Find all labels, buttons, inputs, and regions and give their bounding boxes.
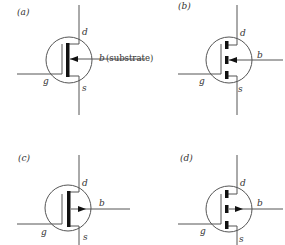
body-label: b (257, 50, 263, 60)
source-label: s (83, 232, 88, 242)
body-label: b (99, 198, 105, 208)
panel-c-label: (c) (18, 153, 31, 163)
gate-label: g (200, 226, 206, 236)
body-label: b (99, 53, 105, 63)
drain-label: d (240, 178, 246, 188)
source-label: s (238, 84, 243, 94)
gate-label: g (43, 76, 49, 86)
panel-a-label: (a) (17, 7, 30, 17)
channel-segment (225, 190, 229, 198)
panel-b-label: (b) (178, 1, 191, 11)
panel-b: (b) d b g s (178, 1, 283, 115)
gate-label: g (41, 227, 47, 237)
arrow-outward-icon (235, 206, 243, 212)
channel-segment (225, 56, 229, 64)
source-label: s (82, 83, 87, 93)
gate-label: g (199, 76, 205, 86)
drain-label: d (240, 28, 246, 38)
panel-d: (d) d b g s (178, 153, 283, 245)
mosfet-symbols-figure: (a) d b (substrate) g s (b) d (0, 0, 285, 245)
panel-c: (c) d b g s (17, 153, 130, 245)
arrow-inward-icon (70, 56, 78, 62)
drain-label: d (82, 178, 88, 188)
channel-segment (225, 41, 229, 49)
channel-bar (66, 43, 70, 77)
channel-segment (225, 71, 229, 79)
channel-segment (225, 221, 229, 229)
channel-bar (67, 191, 71, 227)
arrow-inward-icon (229, 57, 237, 63)
drain-label: d (82, 27, 88, 37)
arrow-outward-icon (78, 206, 86, 212)
panel-d-label: (d) (180, 153, 193, 163)
channel-segment (225, 205, 229, 213)
body-label: b (257, 198, 263, 208)
panel-a: (a) d b (substrate) g s (17, 5, 153, 115)
source-label: s (239, 234, 244, 244)
body-note: (substrate) (106, 53, 153, 63)
